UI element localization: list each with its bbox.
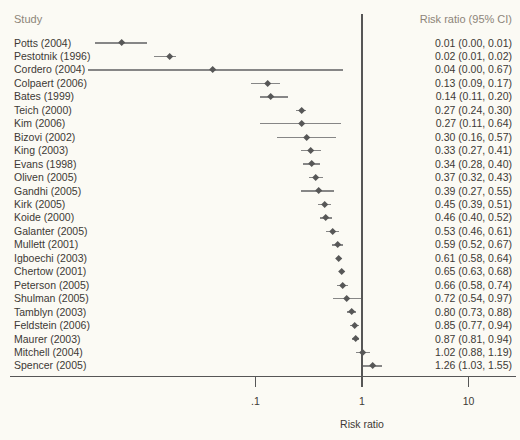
point-estimate-marker	[312, 174, 320, 182]
study-label: Shulman (2005)	[14, 292, 89, 305]
study-label: Oliven (2005)	[14, 171, 77, 184]
point-estimate-marker	[343, 295, 351, 303]
risk-ratio-column-header: Risk ratio (95% CI)	[420, 13, 512, 25]
study-label: Gandhi (2005)	[14, 185, 81, 198]
point-estimate-marker	[335, 255, 343, 263]
x-axis-tick	[361, 376, 362, 387]
point-estimate-marker	[264, 80, 272, 88]
study-label: Mullett (2001)	[14, 238, 78, 251]
risk-ratio-value: 0.01 (0.00, 0.01)	[435, 37, 512, 50]
study-label: Colpaert (2006)	[14, 77, 87, 90]
point-estimate-marker	[348, 308, 356, 316]
point-estimate-marker	[267, 93, 275, 101]
point-estimate-marker	[334, 241, 342, 249]
study-label: Bizovi (2002)	[14, 131, 75, 144]
point-estimate-marker	[338, 268, 346, 276]
point-estimate-marker	[209, 66, 217, 74]
point-estimate-marker	[351, 322, 359, 330]
risk-ratio-value: 0.87 (0.81, 0.94)	[435, 333, 512, 346]
risk-ratio-value: 0.04 (0.00, 0.67)	[435, 63, 512, 76]
study-label: Teich (2000)	[14, 104, 72, 117]
x-axis-tick-label: .1	[251, 395, 260, 407]
study-label: Bates (1999)	[14, 90, 74, 103]
study-label: Mitchell (2004)	[14, 346, 83, 359]
risk-ratio-value: 1.02 (0.88, 1.19)	[435, 346, 512, 359]
study-label: Cordero (2004)	[14, 63, 85, 76]
risk-ratio-value: 0.37 (0.32, 0.43)	[435, 171, 512, 184]
risk-ratio-value: 0.45 (0.39, 0.51)	[435, 198, 512, 211]
risk-ratio-value: 0.02 (0.01, 0.02)	[435, 50, 512, 63]
study-label: Peterson (2005)	[14, 279, 89, 292]
study-label: Kirk (2005)	[14, 198, 65, 211]
study-label: Feldstein (2006)	[14, 319, 90, 332]
risk-ratio-value: 0.39 (0.27, 0.55)	[435, 185, 512, 198]
risk-ratio-value: 0.27 (0.11, 0.64)	[436, 117, 512, 130]
risk-ratio-value: 0.33 (0.27, 0.41)	[435, 144, 512, 157]
study-label: Chertow (2001)	[14, 265, 86, 278]
point-estimate-marker	[352, 335, 360, 343]
study-label: Spencer (2005)	[14, 359, 86, 372]
point-estimate-marker	[369, 362, 377, 370]
risk-ratio-value: 0.13 (0.09, 0.17)	[435, 77, 512, 90]
point-estimate-marker	[329, 228, 337, 236]
study-label: Koide (2000)	[14, 211, 74, 224]
forest-plot: Study Risk ratio (95% CI) Potts (2004)0.…	[0, 0, 520, 440]
x-axis-tick	[468, 376, 469, 387]
point-estimate-marker	[322, 214, 330, 222]
reference-line-at-1	[361, 14, 362, 387]
risk-ratio-value: 0.34 (0.28, 0.40)	[435, 158, 512, 171]
risk-ratio-value: 0.59 (0.52, 0.67)	[435, 238, 512, 251]
study-label: Tamblyn (2003)	[14, 306, 86, 319]
point-estimate-marker	[339, 281, 347, 289]
risk-ratio-value: 0.80 (0.73, 0.88)	[435, 306, 512, 319]
risk-ratio-value: 0.27 (0.24, 0.30)	[435, 104, 512, 117]
study-column-header: Study	[14, 13, 42, 25]
study-label: Maurer (2003)	[14, 333, 81, 346]
study-label: Kim (2006)	[14, 117, 65, 130]
x-axis-line	[10, 376, 516, 377]
study-label: King (2003)	[14, 144, 68, 157]
study-label: Galanter (2005)	[14, 225, 88, 238]
risk-ratio-value: 0.85 (0.77, 0.94)	[435, 319, 512, 332]
x-axis-tick-label: 1	[359, 395, 365, 407]
risk-ratio-value: 0.65 (0.63, 0.68)	[435, 265, 512, 278]
study-label: Igboechi (2003)	[14, 252, 87, 265]
risk-ratio-value: 0.14 (0.11, 0.20)	[436, 90, 512, 103]
point-estimate-marker	[308, 160, 316, 168]
study-label: Pestotnik (1996)	[14, 50, 90, 63]
risk-ratio-value: 0.61 (0.58, 0.64)	[435, 252, 512, 265]
x-axis-title: Risk ratio	[340, 418, 384, 430]
point-estimate-marker	[307, 147, 315, 155]
point-estimate-marker	[165, 53, 173, 61]
risk-ratio-value: 0.46 (0.40, 0.52)	[435, 211, 512, 224]
x-axis-tick	[255, 376, 256, 387]
point-estimate-marker	[315, 187, 323, 195]
point-estimate-marker	[321, 201, 329, 209]
point-estimate-marker	[118, 39, 126, 47]
risk-ratio-value: 0.66 (0.58, 0.74)	[435, 279, 512, 292]
risk-ratio-value: 0.30 (0.16, 0.57)	[435, 131, 512, 144]
point-estimate-marker	[302, 133, 310, 141]
risk-ratio-value: 0.72 (0.54, 0.97)	[435, 292, 512, 305]
risk-ratio-value: 0.53 (0.46, 0.61)	[435, 225, 512, 238]
x-axis-tick-label: 10	[463, 395, 475, 407]
risk-ratio-value: 1.26 (1.03, 1.55)	[435, 359, 512, 372]
point-estimate-marker	[298, 120, 306, 128]
study-label: Potts (2004)	[14, 37, 71, 50]
study-label: Evans (1998)	[14, 158, 76, 171]
point-estimate-marker	[298, 106, 306, 114]
point-estimate-marker	[359, 349, 367, 357]
